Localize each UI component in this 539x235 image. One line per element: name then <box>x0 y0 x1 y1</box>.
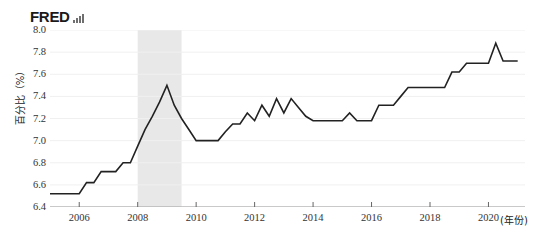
bar-chart-icon <box>73 14 84 24</box>
y-axis-tick-label: 7.0 <box>20 136 46 146</box>
chart-svg <box>50 30 525 207</box>
x-axis-tick-label: 2020 <box>478 212 499 223</box>
x-axis-title: (年份) <box>500 212 528 227</box>
y-axis-tick-labels: 8.07.87.67.47.27.06.86.66.4 <box>0 0 46 235</box>
y-axis-tick-label: 7.8 <box>20 47 46 57</box>
x-axis-tick-label: 2014 <box>303 212 324 223</box>
x-axis-tick-label: 2006 <box>69 212 90 223</box>
gridlines <box>50 30 525 207</box>
x-axis-tick-label: 2012 <box>244 212 265 223</box>
x-axis-tick-label: 2018 <box>420 212 441 223</box>
plot-area <box>50 30 525 207</box>
y-axis-tick-label: 8.0 <box>20 25 46 35</box>
y-axis-tick-label: 7.4 <box>20 91 46 101</box>
x-axis-tick-labels: 20062008201020122014201620182020 <box>0 212 539 232</box>
y-axis-tick-label: 7.2 <box>20 114 46 124</box>
fred-chart: FRED 百分比（%） 8.07.87.67.47.27.06.86.66.4 … <box>0 0 539 235</box>
x-axis-tick-label: 2010 <box>186 212 207 223</box>
x-axis-tick-label: 2008 <box>127 212 148 223</box>
y-axis-tick-label: 6.4 <box>20 202 46 212</box>
y-axis-tick-label: 6.6 <box>20 180 46 190</box>
x-axis-tick-label: 2016 <box>361 212 382 223</box>
y-axis-tick-label: 6.8 <box>20 158 46 168</box>
y-axis-tick-label: 7.6 <box>20 69 46 79</box>
